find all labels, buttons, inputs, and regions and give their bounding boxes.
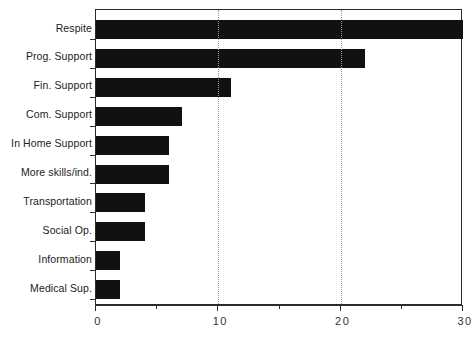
y-axis-label: Transportation bbox=[4, 196, 92, 207]
bar-information bbox=[96, 251, 120, 270]
bar-medical-sup bbox=[96, 280, 120, 299]
y-axis-tick bbox=[90, 299, 95, 300]
bar-prog-support bbox=[96, 49, 365, 68]
y-axis-label: In Home Support bbox=[4, 138, 92, 149]
y-axis-label: Information bbox=[4, 254, 92, 265]
y-axis-tick bbox=[90, 97, 95, 98]
gridline-20 bbox=[341, 10, 342, 304]
bar-row bbox=[96, 136, 463, 155]
y-axis-label: Com. Support bbox=[4, 109, 92, 120]
gridline-10 bbox=[218, 10, 219, 304]
y-axis-label: Prog. Support bbox=[4, 51, 92, 62]
y-axis-label: Social Op. bbox=[4, 225, 92, 236]
bar-row bbox=[96, 20, 463, 39]
x-axis-tick-label: 0 bbox=[94, 315, 102, 327]
plot-area bbox=[95, 9, 462, 305]
bar-row bbox=[96, 251, 463, 270]
x-axis-tick-30 bbox=[462, 305, 463, 311]
bar-row bbox=[96, 49, 463, 68]
y-axis-tick bbox=[90, 39, 95, 40]
x-axis-minor-tick-25 bbox=[401, 305, 402, 309]
y-axis-tick bbox=[90, 155, 95, 156]
y-axis-label: Fin. Support bbox=[4, 80, 92, 91]
bar-row bbox=[96, 193, 463, 212]
x-axis-minor-tick-5 bbox=[156, 305, 157, 309]
bar-respite bbox=[96, 20, 463, 39]
y-axis-tick bbox=[90, 241, 95, 242]
y-axis-labels: RespiteProg. SupportFin. SupportCom. Sup… bbox=[0, 9, 92, 305]
bar-row bbox=[96, 280, 463, 299]
bar-fin-support bbox=[96, 78, 231, 97]
y-axis-label: Respite bbox=[4, 23, 92, 34]
y-axis-tick bbox=[90, 183, 95, 184]
y-axis-tick bbox=[90, 68, 95, 69]
x-axis-tick-0 bbox=[95, 305, 96, 311]
x-axis-tick-20 bbox=[340, 305, 341, 311]
y-axis-tick bbox=[90, 270, 95, 271]
bar-social-op bbox=[96, 222, 145, 241]
bar-row bbox=[96, 78, 463, 97]
bar-row bbox=[96, 107, 463, 126]
x-axis-tick-10 bbox=[217, 305, 218, 311]
y-axis-label: More skills/ind. bbox=[4, 167, 92, 178]
x-axis-minor-tick-15 bbox=[279, 305, 280, 309]
bars-layer bbox=[96, 10, 461, 304]
bar-more-skills-ind bbox=[96, 165, 169, 184]
x-axis-tick-label: 30 bbox=[457, 315, 472, 327]
bar-com-support bbox=[96, 107, 182, 126]
y-axis-tick bbox=[90, 126, 95, 127]
y-axis-tick bbox=[90, 212, 95, 213]
bar-transportation bbox=[96, 193, 145, 212]
bar-in-home-support bbox=[96, 136, 169, 155]
bar-row bbox=[96, 222, 463, 241]
x-axis-tick-label: 10 bbox=[213, 315, 228, 327]
bar-chart: RespiteProg. SupportFin. SupportCom. Sup… bbox=[0, 0, 475, 338]
y-axis-label: Medical Sup. bbox=[4, 283, 92, 294]
x-axis-tick-label: 20 bbox=[335, 315, 350, 327]
bar-row bbox=[96, 165, 463, 184]
